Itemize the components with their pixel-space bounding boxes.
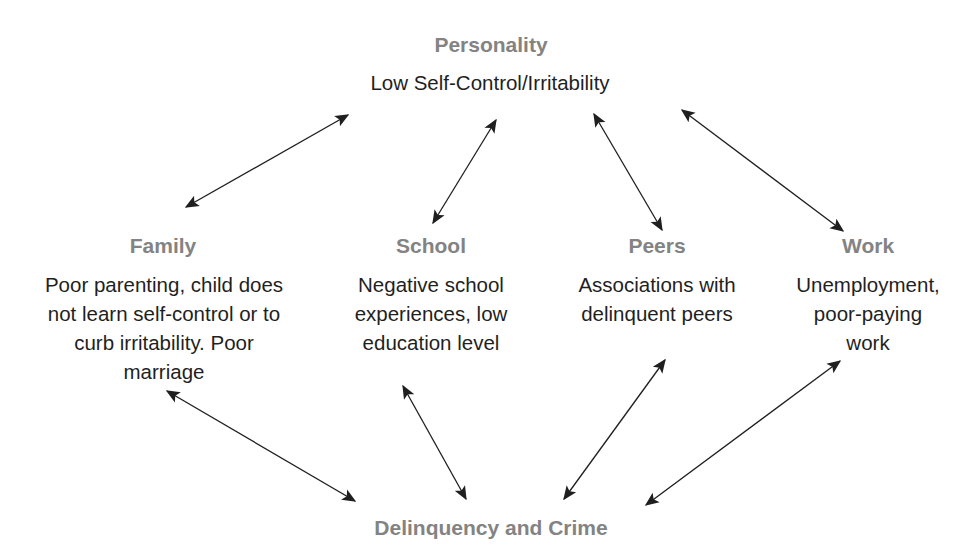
personality-description-text: Low Self-Control/Irritability xyxy=(370,68,609,97)
school-description-line: experiences, low xyxy=(355,299,508,328)
peers-description-line: delinquent peers xyxy=(578,299,735,328)
work-description: Unemployment, poor-paying work xyxy=(796,270,940,357)
peers-title: Peers xyxy=(628,234,685,258)
family-description: Poor parenting, child does not learn sel… xyxy=(45,270,283,386)
school-description: Negative school experiences, low educati… xyxy=(355,270,508,357)
personality-description: Low Self-Control/Irritability xyxy=(370,68,609,97)
arrow-personality-family xyxy=(186,115,348,207)
arrow-personality-peers xyxy=(594,114,662,230)
school-description-line: education level xyxy=(355,328,508,357)
family-description-line: not learn self-control or to xyxy=(45,299,283,328)
school-description-line: Negative school xyxy=(355,270,508,299)
diagram-canvas: Personality Low Self-Control/Irritabilit… xyxy=(0,0,969,555)
school-title: School xyxy=(396,234,466,258)
arrow-work-crime xyxy=(646,361,840,505)
work-description-line: Unemployment, xyxy=(796,270,940,299)
family-description-line: Poor parenting, child does xyxy=(45,270,283,299)
family-description-line: marriage xyxy=(45,357,283,386)
arrow-personality-work xyxy=(682,110,843,231)
personality-title: Personality xyxy=(434,33,547,57)
work-description-line: poor-paying xyxy=(796,299,940,328)
work-description-line: work xyxy=(796,328,940,357)
arrow-school-crime xyxy=(403,386,466,499)
peers-description: Associations with delinquent peers xyxy=(578,270,735,328)
peers-description-line: Associations with xyxy=(578,270,735,299)
work-title: Work xyxy=(842,234,894,258)
arrow-personality-school xyxy=(433,120,496,223)
arrow-family-crime xyxy=(167,391,355,501)
family-description-line: curb irritability. Poor xyxy=(45,328,283,357)
arrow-peers-crime xyxy=(564,360,665,499)
delinquency-and-crime-title: Delinquency and Crime xyxy=(374,516,607,540)
family-title: Family xyxy=(130,234,197,258)
